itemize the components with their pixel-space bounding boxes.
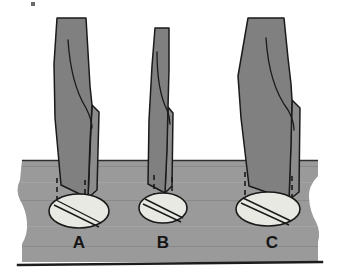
cut-ellipse-a — [49, 194, 109, 228]
cut-ellipse-b — [139, 193, 187, 223]
label-c: C — [266, 233, 278, 252]
tool-width-diagram: A B C — [0, 0, 340, 278]
surface-baseline — [18, 262, 322, 265]
label-a: A — [73, 233, 85, 252]
cut-ellipse-c — [236, 192, 300, 226]
diagram-canvas: A B C — [0, 0, 340, 278]
scan-speck — [31, 2, 35, 6]
tool-b-group[interactable] — [148, 28, 173, 212]
tool-b-blade — [148, 28, 169, 193]
label-b: B — [157, 233, 169, 252]
